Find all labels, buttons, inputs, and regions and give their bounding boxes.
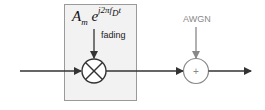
block-diagram: Am ej2πfDt fading AWGN + [0,0,265,110]
multiplier-icon [82,59,106,83]
adder-icon: + [184,59,209,84]
diagram-graphics: + [0,0,265,110]
svg-text:+: + [193,66,199,77]
